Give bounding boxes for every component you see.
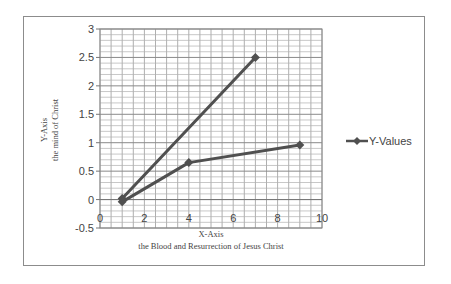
y-tick-label: 3	[88, 23, 94, 35]
x-tick-label: 4	[186, 212, 192, 224]
x-tick-label: 6	[230, 212, 236, 224]
y-axis-subtitle: the mind of Christ	[50, 98, 60, 161]
y-tick-label: 2.5	[79, 51, 94, 63]
x-tick-label: 2	[141, 212, 147, 224]
y-axis-title: Y-Axis	[39, 118, 49, 142]
x-tick-label: 0	[97, 212, 103, 224]
gridlines	[100, 29, 322, 228]
y-tick-label: 2	[88, 80, 94, 92]
y-tick-label: 0	[88, 194, 94, 206]
y-tick-label: 1	[88, 137, 94, 149]
x-axis-ticks: 0246810	[97, 212, 328, 224]
y-tick-label: 0.5	[79, 165, 94, 177]
legend-label: Y-Values	[369, 135, 412, 147]
x-axis-subtitle: the Blood and Resurrection of Jesus Chri…	[138, 241, 284, 251]
x-tick-label: 10	[316, 212, 328, 224]
x-axis-title: X-Axis	[198, 229, 223, 239]
y-axis-ticks: 32.521.510.50-0.5	[75, 23, 100, 234]
y-tick-label: 1.5	[79, 108, 94, 120]
chart-plot: 32.521.510.50-0.5 0246810 X-Axis the Blo…	[0, 0, 451, 284]
legend: Y-Values	[346, 135, 412, 147]
legend-diamond-icon	[353, 137, 361, 145]
x-tick-label: 8	[275, 212, 281, 224]
y-tick-label: -0.5	[75, 222, 94, 234]
